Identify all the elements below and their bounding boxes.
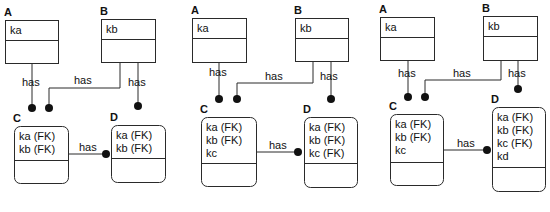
- entity-c[interactable]: Cka (FK)kb (FK)kc: [200, 103, 257, 187]
- relationship-label: has: [398, 67, 416, 79]
- key-attribute: kc: [206, 147, 218, 159]
- entity-b[interactable]: Bkb: [294, 4, 349, 62]
- cardinality-many-dot-icon: [327, 95, 335, 103]
- entity-name: D: [303, 103, 311, 115]
- relationship: has: [209, 62, 227, 103]
- entity-name: C: [389, 100, 397, 112]
- relationship-label: has: [128, 76, 146, 88]
- relationship-label: has: [22, 76, 40, 88]
- entity-b[interactable]: Bkb: [482, 2, 538, 61]
- entity-b[interactable]: Bkb: [100, 5, 156, 63]
- entity-d[interactable]: Dka (FK)kb (FK)kc (FK): [303, 103, 358, 188]
- entity-name: A: [4, 6, 12, 18]
- relationship-label: has: [508, 67, 526, 79]
- entity-name: C: [200, 103, 208, 115]
- key-attribute: ka (FK): [206, 121, 242, 133]
- relationship: has: [256, 139, 302, 156]
- diagram-panels: hashashashasAkaBkbCka (FK)kb (FK)Dka (FK…: [4, 2, 546, 192]
- cardinality-many-dot-icon: [514, 85, 522, 93]
- key-attribute: ka: [197, 22, 210, 34]
- entity-name: C: [13, 112, 21, 124]
- entity-name: D: [491, 93, 499, 105]
- panel-1: hashashashasAkaBkbCka (FK)kb (FK)Dka (FK…: [4, 5, 166, 184]
- relationship: has: [68, 141, 110, 158]
- entity-name: D: [110, 111, 118, 123]
- key-attribute: ka: [385, 21, 398, 33]
- entity-d[interactable]: Dka (FK)kb (FK)kc (FK)kd: [491, 93, 546, 192]
- relationship-label: has: [320, 70, 338, 82]
- relationship-label: has: [79, 141, 97, 153]
- entity-c[interactable]: Cka (FK)kb (FK): [13, 112, 69, 184]
- relationship-label: has: [269, 139, 287, 151]
- key-attribute: kb (FK): [19, 143, 55, 155]
- relationship-label: has: [453, 67, 471, 79]
- relationship-label: has: [265, 70, 283, 82]
- key-attribute: kb (FK): [497, 124, 533, 136]
- entity-name: B: [100, 5, 108, 17]
- entity-c[interactable]: Cka (FK)kb (FK)kc: [389, 100, 444, 186]
- cardinality-many-dot-icon: [102, 150, 110, 158]
- entity-d[interactable]: Dka (FK)kb (FK): [110, 111, 166, 183]
- cardinality-many-dot-icon: [421, 93, 429, 101]
- relationship: has: [508, 60, 526, 93]
- cardinality-many-dot-icon: [233, 95, 241, 103]
- key-attribute: ka (FK): [395, 118, 431, 130]
- cardinality-many-dot-icon: [134, 102, 142, 110]
- cardinality-many-dot-icon: [28, 104, 36, 112]
- relationship-label: has: [74, 74, 92, 86]
- key-attribute: ka (FK): [19, 130, 55, 142]
- entity-name: A: [191, 4, 199, 16]
- key-attribute: kb (FK): [395, 131, 431, 143]
- key-attribute: kb: [300, 22, 312, 34]
- key-attribute: ka (FK): [497, 111, 533, 123]
- cardinality-many-dot-icon: [404, 93, 412, 101]
- entity-name: B: [482, 2, 490, 14]
- key-attribute: kd: [497, 150, 509, 162]
- key-attribute: kb: [106, 23, 118, 35]
- key-attribute: kb (FK): [309, 134, 345, 146]
- entity-name: B: [294, 4, 302, 16]
- key-attribute: kc: [395, 144, 407, 156]
- relationship-label: has: [209, 66, 227, 78]
- er-diagram-canvas: hashashashasAkaBkbCka (FK)kb (FK)Dka (FK…: [0, 0, 550, 212]
- entity-a[interactable]: Aka: [379, 3, 435, 61]
- entity-name: A: [379, 3, 387, 15]
- key-attribute: ka: [10, 24, 23, 36]
- key-attribute: kc (FK): [309, 147, 344, 159]
- relationship: has: [45, 62, 120, 112]
- relationship: has: [398, 60, 416, 101]
- key-attribute: kb (FK): [206, 134, 242, 146]
- panel-3: hashashashasAkaBkbCka (FK)kb (FK)kcDka (…: [379, 2, 546, 192]
- key-attribute: kb: [488, 20, 500, 32]
- cardinality-many-dot-icon: [294, 148, 302, 156]
- relationship-label: has: [457, 137, 475, 149]
- entity-a[interactable]: Aka: [4, 6, 59, 64]
- relationship: has: [320, 61, 338, 103]
- cardinality-many-dot-icon: [45, 104, 53, 112]
- key-attribute: ka (FK): [116, 129, 152, 141]
- cardinality-many-dot-icon: [215, 95, 223, 103]
- relationship: has: [233, 61, 313, 103]
- relationship: has: [128, 62, 146, 110]
- key-attribute: ka (FK): [309, 121, 345, 133]
- panel-2: hashashashasAkaBkbCka (FK)kb (FK)kcDka (…: [191, 4, 358, 188]
- relationship: has: [22, 63, 40, 112]
- relationship: has: [443, 137, 491, 154]
- entity-a[interactable]: Aka: [191, 4, 247, 63]
- key-attribute: kc (FK): [497, 137, 532, 149]
- key-attribute: kb (FK): [116, 142, 152, 154]
- relationship: has: [421, 60, 501, 101]
- cardinality-many-dot-icon: [483, 146, 491, 154]
